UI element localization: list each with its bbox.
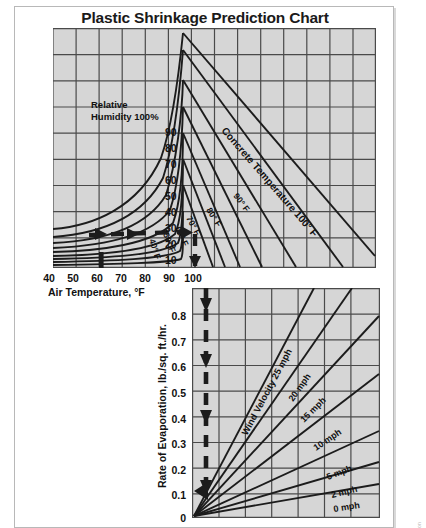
xtick-60: 60 [84,272,110,284]
humidity-label-10: 10 [165,254,181,266]
xtick-80: 80 [132,272,158,284]
humidity-label-30: 30 [165,222,181,234]
humidity-label-20: 20 [165,238,181,250]
xtick-70: 70 [108,272,134,284]
humidity-label-60: 60 [165,174,181,186]
ytick-0-1: 0.1 [156,489,186,501]
top-chart-plot: Concrete Temperature 100° F 90° F 80° F … [53,28,376,268]
top-chart: Concrete Temperature 100° F 90° F 80° F … [53,28,376,268]
bottom-chart-plot: Wind Velocity 25 mph 20 mph 15 mph 10 mp… [192,288,380,518]
xtick-100: 100 [180,272,206,284]
chart-page: Plastic Shrinkage Prediction Chart [0,0,426,528]
humidity-label-70: 70 [165,158,181,170]
page-title: Plastic Shrinkage Prediction Chart [45,9,365,27]
bottom-plot-background [192,288,380,518]
humidity-label-50: 50 [165,190,181,202]
xtick-40: 40 [36,272,62,284]
xtick-90: 90 [156,272,182,284]
xaxis-caption: Air Temperature, °F [48,286,145,298]
bottom-chart: Wind Velocity 25 mph 20 mph 15 mph 10 mp… [192,288,380,518]
ytick-0-8: 0.8 [156,310,186,322]
relative-humidity-note: Relative Humidity 100% [91,99,159,122]
ytick-0: 0 [156,512,186,524]
humidity-label-80: 80 [165,142,181,154]
relative-humidity-note-line1: Relative [91,99,159,111]
humidity-label-90: 90 [165,126,181,138]
humidity-label-40: 40 [165,206,181,218]
yaxis-caption: Rate of Evaporation, lb./sq. ft./hr. [156,324,168,488]
relative-humidity-note-line2: Humidity 100% [91,111,159,123]
trace-tick-mark [99,252,104,268]
source-credit: Design and Control of Concrete Mixtures,… [416,522,422,528]
xtick-50: 50 [60,272,86,284]
